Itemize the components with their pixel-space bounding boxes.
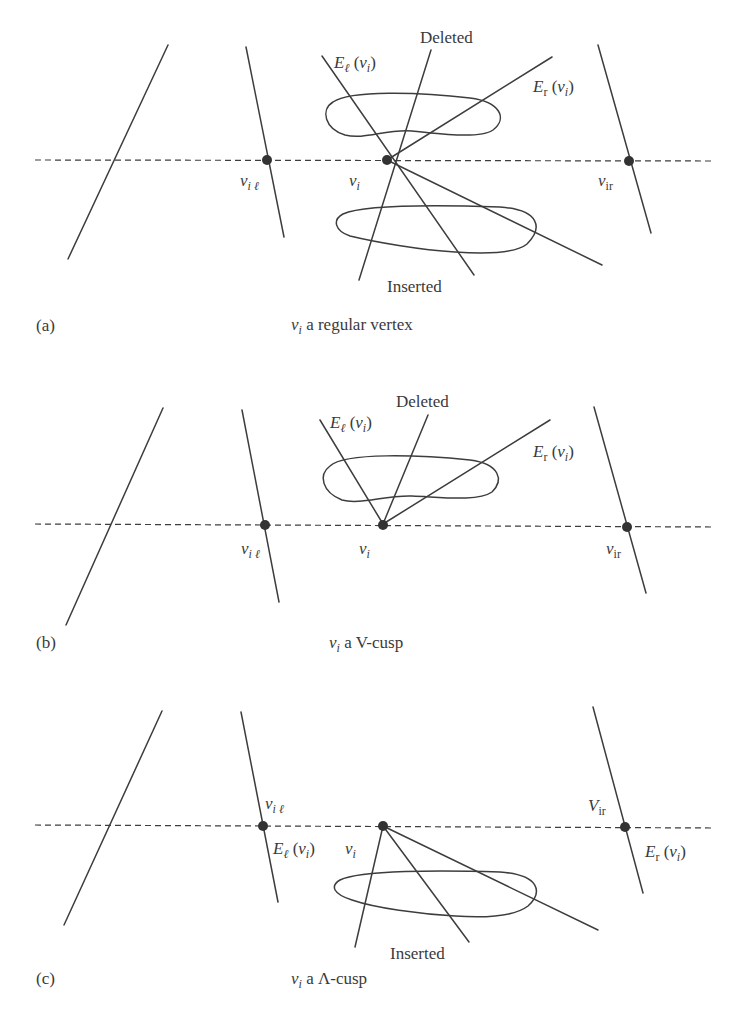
vil-label: νi ℓ bbox=[240, 172, 259, 192]
vertex-vi bbox=[382, 155, 392, 165]
panel-c bbox=[35, 707, 715, 947]
vir-label: Vir bbox=[588, 797, 606, 817]
vi-label: νi bbox=[345, 840, 356, 860]
er-label: Er (νi) bbox=[533, 443, 574, 463]
el-label: Eℓ (νi) bbox=[334, 54, 376, 74]
er-label: Er (νi) bbox=[645, 843, 686, 863]
inserted-region bbox=[334, 871, 536, 917]
vir-label: νir bbox=[606, 540, 621, 560]
vi-label: νi bbox=[349, 172, 360, 192]
vertex-vi bbox=[378, 821, 388, 831]
vertex-vi bbox=[378, 520, 388, 530]
edge-inserted-left bbox=[355, 826, 383, 947]
caption-b: νi a V-cusp bbox=[329, 634, 403, 654]
sweep-line bbox=[35, 524, 715, 527]
vil-label: νi ℓ bbox=[241, 540, 260, 560]
deleted-label: Deleted bbox=[396, 393, 449, 410]
caption-c: νi a Λ-cusp bbox=[291, 970, 367, 990]
vertex-vil bbox=[258, 821, 268, 831]
deleted-label: Deleted bbox=[420, 29, 473, 46]
vil-label: νi ℓ bbox=[265, 795, 284, 815]
sweep-line-diagram bbox=[0, 0, 740, 1019]
panel-b bbox=[35, 407, 715, 625]
panel-a bbox=[35, 45, 715, 280]
caption-a: νi a regular vertex bbox=[291, 316, 413, 336]
sweep-line bbox=[35, 825, 715, 828]
panel-label-c: (c) bbox=[36, 970, 55, 987]
vir-label: νir bbox=[598, 172, 613, 192]
vertex-vil bbox=[260, 520, 270, 530]
vertex-vir bbox=[620, 822, 630, 832]
edge-vil bbox=[246, 47, 284, 237]
vi-label: νi bbox=[359, 540, 370, 560]
edge-vir bbox=[598, 45, 651, 233]
vertex-vil bbox=[262, 155, 272, 165]
edge-far-left bbox=[66, 408, 163, 625]
vertex-vir bbox=[622, 522, 632, 532]
er-label: Er (νi) bbox=[533, 78, 574, 98]
panel-label-b: (b) bbox=[36, 634, 56, 651]
deleted-region bbox=[323, 456, 498, 502]
inserted-label: Inserted bbox=[387, 278, 442, 295]
inserted-region bbox=[336, 206, 536, 253]
edge-inserted-mid bbox=[383, 826, 469, 942]
edge-far-left bbox=[64, 711, 162, 925]
el-label: Eℓ (νi) bbox=[330, 414, 372, 434]
el-label: Eℓ (νi) bbox=[273, 840, 315, 860]
edge-el bbox=[320, 420, 383, 524]
edge-far-left bbox=[68, 45, 168, 259]
vertex-vir bbox=[624, 156, 634, 166]
edge-er bbox=[383, 420, 550, 524]
edge-vir bbox=[594, 407, 646, 593]
edge-er bbox=[387, 57, 552, 160]
edge-inserted-right bbox=[383, 826, 598, 930]
inserted-label: Inserted bbox=[390, 945, 445, 962]
sweep-line bbox=[35, 160, 715, 161]
edge-deleted bbox=[383, 415, 428, 524]
panel-label-a: (a) bbox=[36, 317, 55, 334]
edge-vil bbox=[242, 410, 279, 602]
